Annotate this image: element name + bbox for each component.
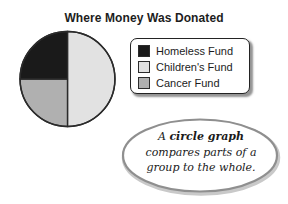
legend-item-childrens-fund: Children's Fund (138, 59, 249, 75)
chart-legend: Homeless Fund Children's Fund Cancer Fun… (130, 38, 250, 94)
callout-text: A circle graph compares parts of a group… (120, 129, 282, 176)
callout-term: circle graph (169, 130, 244, 143)
callout-line-1-lead: A (158, 130, 169, 143)
legend-swatch-homeless-fund (138, 45, 150, 57)
callout-line-2: compares parts of a (120, 145, 282, 161)
legend-label-homeless-fund: Homeless Fund (156, 45, 233, 57)
definition-callout: A circle graph compares parts of a group… (120, 116, 282, 196)
legend-label-childrens-fund: Children's Fund (156, 61, 233, 73)
legend-swatch-cancer-fund (138, 77, 150, 89)
legend-swatch-childrens-fund (138, 61, 150, 73)
callout-line-1: A circle graph (120, 129, 282, 145)
pie-chart (19, 30, 116, 128)
callout-line-3: group to the whole. (120, 160, 282, 176)
legend-item-homeless-fund: Homeless Fund (138, 43, 249, 59)
legend-label-cancer-fund: Cancer Fund (156, 77, 220, 89)
legend-item-cancer-fund: Cancer Fund (138, 75, 249, 91)
pie-slice-childrens-fund (68, 32, 116, 127)
pie-chart-svg (19, 30, 116, 128)
page-title: Where Money Was Donated (0, 11, 288, 25)
